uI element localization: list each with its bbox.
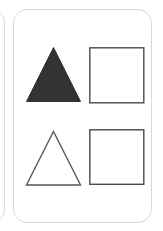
square-outline-icon xyxy=(89,129,146,186)
shape-slot-top-left[interactable] xyxy=(25,46,82,103)
triangle-filled-icon xyxy=(25,46,82,103)
shape-slot-bottom-right[interactable] xyxy=(89,129,146,186)
triangle-outline-icon xyxy=(25,130,82,187)
shape-slot-top-right[interactable] xyxy=(89,47,146,104)
square-outline-icon xyxy=(89,47,146,104)
canvas xyxy=(0,0,163,231)
shape-slot-bottom-left[interactable] xyxy=(25,130,82,187)
partially-visible-card[interactable] xyxy=(0,9,5,223)
shape-grid xyxy=(13,39,152,195)
